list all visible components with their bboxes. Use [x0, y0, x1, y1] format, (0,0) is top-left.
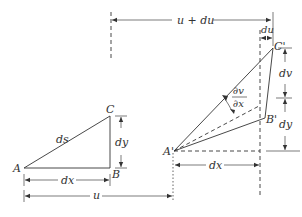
partial-derivative-label: ∂v ∂x: [232, 85, 247, 109]
u-plus-du-label: u + du: [177, 14, 214, 27]
side-a-prime-c-prime: [174, 48, 273, 151]
point-b-label: B: [111, 168, 120, 181]
dv-label: dv: [279, 67, 293, 80]
side-a-prime-b-prime: [174, 118, 265, 151]
ds-label: ds: [56, 133, 69, 146]
dx-label-deformed: dx: [209, 159, 223, 172]
reference-line-diagonal: [174, 106, 259, 151]
dy-label-deformed: dy: [279, 118, 293, 131]
du-label: du: [261, 24, 274, 35]
dx-label-original: dx: [61, 174, 75, 187]
deformation-diagram: A B C ds dy dx u u + du du: [0, 0, 302, 217]
point-c-prime-label: C': [274, 40, 285, 53]
dv-numerator: ∂v: [233, 85, 244, 96]
u-label: u: [93, 189, 100, 202]
dx-denominator: ∂x: [233, 98, 244, 109]
dy-label-original: dy: [115, 136, 129, 149]
point-a-label: A: [12, 162, 21, 175]
side-b-prime-c-prime: [265, 48, 273, 118]
deformed-triangle: [174, 48, 273, 151]
point-c-label: C: [106, 103, 115, 116]
point-a-prime-label: A': [162, 145, 174, 158]
point-b-prime-label: B': [265, 113, 277, 126]
